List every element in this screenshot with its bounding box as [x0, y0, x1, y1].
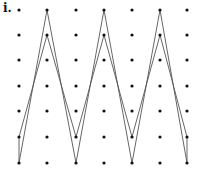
grid-dot — [185, 58, 188, 61]
grid-dot — [185, 33, 188, 36]
grid-dot — [158, 135, 161, 138]
grid-dot — [102, 33, 105, 36]
grid-dot — [45, 84, 48, 87]
grid-dot — [185, 8, 188, 11]
grid-dot — [130, 161, 133, 164]
grid-dot — [185, 109, 188, 112]
grid-dot — [158, 161, 161, 164]
grid-dot — [130, 135, 133, 138]
grid-dot — [45, 161, 48, 164]
grid-dot — [102, 161, 105, 164]
grid-dot — [17, 84, 20, 87]
grid-dot — [130, 109, 133, 112]
grid-dot — [102, 8, 105, 11]
grid-dot — [185, 135, 188, 138]
grid-dot — [17, 33, 20, 36]
grid-dot — [74, 58, 77, 61]
grid-dot — [45, 8, 48, 11]
grid-dot — [74, 8, 77, 11]
grid-dot — [158, 8, 161, 11]
grid-dot — [17, 58, 20, 61]
grid-dot — [102, 58, 105, 61]
grid-dot — [130, 8, 133, 11]
grid-dot — [17, 161, 20, 164]
grid-dot — [74, 161, 77, 164]
grid-dot — [102, 109, 105, 112]
grid-dot — [130, 84, 133, 87]
grid-dot — [158, 58, 161, 61]
grid-dot — [74, 109, 77, 112]
grid-dot — [74, 33, 77, 36]
grid-dot — [158, 109, 161, 112]
grid-dot — [17, 109, 20, 112]
grid-dot — [158, 33, 161, 36]
grid-dot — [17, 135, 20, 138]
grid-dot — [158, 84, 161, 87]
zigzag-diagram — [0, 0, 198, 174]
grid-dot — [102, 84, 105, 87]
figure-label: i. — [3, 2, 12, 14]
grid-dot — [45, 135, 48, 138]
grid-dot — [130, 58, 133, 61]
grid-dot — [45, 58, 48, 61]
dot-grid-figure: i. — [0, 0, 198, 174]
grid-dot — [45, 109, 48, 112]
grid-dot — [102, 135, 105, 138]
grid-dot — [185, 161, 188, 164]
grid-dot — [74, 84, 77, 87]
grid-dot — [17, 8, 20, 11]
grid-dot — [130, 33, 133, 36]
grid-dot — [185, 84, 188, 87]
grid-dot — [74, 135, 77, 138]
grid-dot — [45, 33, 48, 36]
